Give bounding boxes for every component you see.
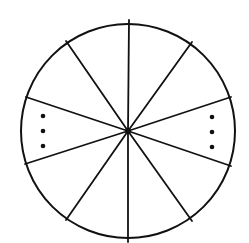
spoke-line-1 (128, 20, 129, 131)
ellipsis-dot-2 (41, 129, 46, 134)
spoke-line-5 (128, 131, 192, 221)
spoke-line-4 (128, 131, 231, 166)
circle-diagram-svg (0, 0, 249, 243)
ellipsis-dot-3 (41, 144, 46, 149)
right-sector-ellipsis (210, 115, 215, 150)
spoke-line-8 (25, 131, 128, 164)
spoke-line-10 (66, 41, 128, 131)
ellipsis-dot-2 (210, 130, 215, 135)
left-sector-ellipsis (41, 114, 46, 149)
spoke-line-2 (128, 42, 192, 131)
ellipsis-dot-1 (41, 114, 46, 119)
center-point (125, 128, 131, 134)
spoke-line-7 (66, 131, 128, 220)
spoke-line-9 (26, 97, 128, 131)
ellipsis-dot-3 (210, 145, 215, 150)
spoke-line-3 (128, 97, 231, 131)
divided-circle-diagram (0, 0, 249, 243)
ellipsis-dot-1 (210, 115, 215, 120)
